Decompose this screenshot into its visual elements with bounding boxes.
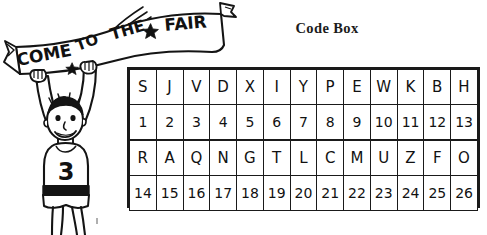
cell-number: 5	[237, 105, 264, 141]
cell-number: 3	[183, 105, 210, 141]
cell-number: 2	[156, 105, 183, 141]
cell-number: 24	[397, 176, 424, 211]
cell-number: 13	[451, 105, 478, 141]
cell-letter: T	[263, 140, 290, 176]
left-hand	[30, 70, 46, 82]
cell-number: 1	[130, 105, 157, 141]
cell-number: 21	[317, 176, 344, 211]
shorts	[43, 195, 89, 208]
cipher-table: S J V D X I Y P E W K B H 1 2 3	[129, 69, 478, 211]
belt	[43, 186, 89, 195]
banner-word-fair: FAIR	[164, 11, 208, 35]
cell-letter: H	[451, 70, 478, 105]
row-letters-2: R A Q N G T L C M U Z F O	[130, 140, 478, 176]
cell-letter: Y	[290, 70, 317, 105]
cell-letter: Z	[397, 140, 424, 176]
cell-letter: U	[370, 140, 397, 176]
cell-letter: X	[237, 70, 264, 105]
cell-number: 15	[156, 176, 183, 211]
shirt-number: 3	[58, 158, 75, 186]
cell-letter: P	[317, 70, 344, 105]
cell-letter: C	[317, 140, 344, 176]
cell-number: 16	[183, 176, 210, 211]
cell-letter: R	[130, 140, 157, 176]
code-box-title: Code Box	[262, 20, 392, 37]
cell-number: 26	[451, 176, 478, 211]
cell-number: 25	[424, 176, 451, 211]
cell-number: 12	[424, 105, 451, 141]
cell-number: 8	[317, 105, 344, 141]
banner-flag-tail	[220, 3, 236, 17]
cell-number: 6	[263, 105, 290, 141]
right-hand	[80, 61, 96, 74]
cell-letter: M	[344, 140, 371, 176]
cell-letter: V	[183, 70, 210, 105]
cell-number: 19	[263, 176, 290, 211]
cell-number: 7	[290, 105, 317, 141]
cell-letter: G	[237, 140, 264, 176]
row-numbers-1: 1 2 3 4 5 6 7 8 9 10 11 12 13	[130, 105, 478, 141]
cell-number: 17	[210, 176, 237, 211]
row-letters-1: S J V D X I Y P E W K B H	[130, 70, 478, 105]
cell-letter: Q	[183, 140, 210, 176]
cell-letter: A	[156, 140, 183, 176]
cell-number: 14	[130, 176, 157, 211]
cell-number: 10	[370, 105, 397, 141]
cell-number: 22	[344, 176, 371, 211]
row-numbers-2: 14 15 16 17 18 19 20 21 22 23 24 25 26	[130, 176, 478, 211]
cell-letter: O	[451, 140, 478, 176]
cell-number: 23	[370, 176, 397, 211]
cell-number: 4	[210, 105, 237, 141]
cell-number: 9	[344, 105, 371, 141]
cell-letter: E	[344, 70, 371, 105]
cell-letter: B	[424, 70, 451, 105]
legs	[52, 207, 85, 235]
cell-number: 11	[397, 105, 424, 141]
cell-number: 20	[290, 176, 317, 211]
code-box-table: S J V D X I Y P E W K B H 1 2 3	[127, 67, 480, 208]
cell-letter: I	[263, 70, 290, 105]
cell-letter: D	[210, 70, 237, 105]
cell-letter: N	[210, 140, 237, 176]
cell-number: 18	[237, 176, 264, 211]
cell-letter: L	[290, 140, 317, 176]
cell-letter: J	[156, 70, 183, 105]
cell-letter: S	[130, 70, 157, 105]
cell-letter: W	[370, 70, 397, 105]
cell-letter: K	[397, 70, 424, 105]
worksheet-page: COME TO THE FAIR	[0, 0, 487, 235]
cell-letter: F	[424, 140, 451, 176]
